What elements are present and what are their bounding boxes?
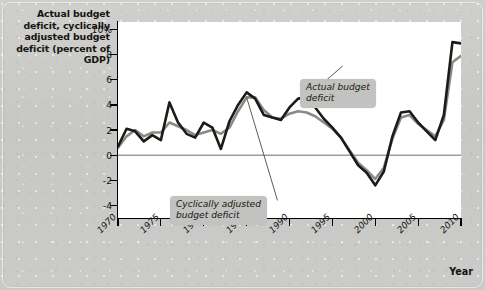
y-tick-label: 0 — [106, 151, 112, 160]
x-tick-mark — [460, 219, 461, 226]
annotation-cyclically-adjusted-deficit: Cyclically adjusted budget deficit — [170, 196, 267, 225]
x-tick-mark — [418, 219, 419, 226]
y-tick-label: 2 — [106, 126, 112, 135]
annotation-actual-budget-deficit: Actual budget deficit — [300, 79, 376, 108]
y-tick-label: 4 — [106, 100, 112, 109]
x-axis-title: Year — [449, 266, 473, 277]
y-tick-label: 10% — [92, 25, 112, 34]
y-tick-label: 8 — [106, 50, 112, 59]
x-tick-mark — [332, 219, 333, 226]
y-tick-label: -2 — [103, 176, 112, 185]
y-axis-title: Actual budget deficit, cyclically adjust… — [2, 8, 110, 66]
chart-canvas — [118, 22, 461, 218]
chart-figure: Actual budget deficit, cyclically adjust… — [0, 0, 485, 290]
x-tick-mark — [160, 219, 161, 226]
x-tick-mark — [117, 219, 118, 226]
plot-area — [118, 22, 461, 218]
y-tick-label: -4 — [103, 201, 112, 210]
y-tick-label: 6 — [106, 75, 112, 84]
x-tick-label: 1970 — [95, 212, 118, 235]
x-tick-mark — [375, 219, 376, 226]
y-axis-spine — [117, 21, 118, 219]
series-line-cyclically-adjusted — [118, 56, 461, 179]
